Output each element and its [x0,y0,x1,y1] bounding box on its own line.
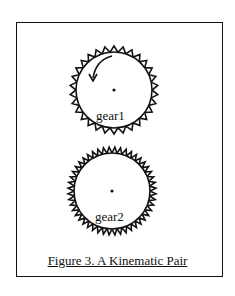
gear2-label: gear2 [95,209,124,225]
gear-diagram [0,0,235,296]
center-dot [112,88,115,91]
center-dot [110,189,113,192]
figure-caption: Figure 3. A Kinematic Pair [0,253,235,269]
gear1-label: gear1 [96,108,125,124]
